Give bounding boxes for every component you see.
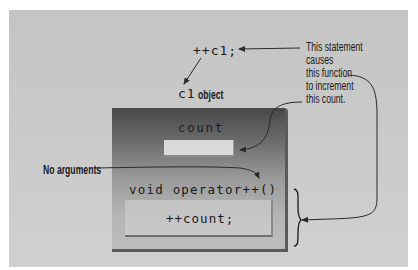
- connector-lines: [0, 0, 418, 270]
- arrow-to-count-slot: [240, 102, 302, 150]
- arrow-to-function-brace: [302, 75, 377, 220]
- arrow-to-statement: [239, 48, 300, 49]
- arrow-to-object: [184, 58, 201, 84]
- function-brace: [294, 189, 301, 246]
- arrow-to-parentheses: [95, 167, 259, 178]
